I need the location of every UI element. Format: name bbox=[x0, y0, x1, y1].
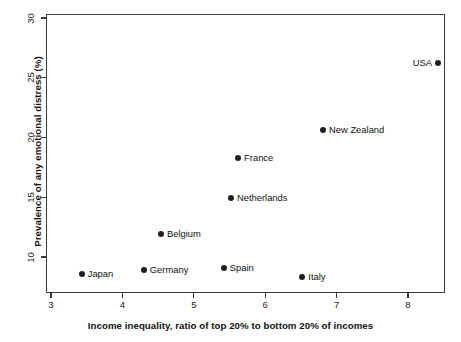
x-tick-mark bbox=[265, 293, 266, 298]
x-tick-mark bbox=[336, 293, 337, 298]
x-tick-mark bbox=[193, 293, 194, 298]
data-point-label: Spain bbox=[230, 263, 254, 273]
data-point[interactable] bbox=[141, 267, 147, 273]
data-point[interactable] bbox=[221, 265, 227, 271]
y-tick-mark bbox=[41, 17, 46, 18]
data-point-label: Belgium bbox=[167, 229, 201, 239]
data-point-label: France bbox=[244, 153, 273, 163]
x-tick-label: 8 bbox=[398, 299, 418, 310]
data-point-label: Japan bbox=[88, 269, 114, 279]
x-tick-label: 5 bbox=[184, 299, 204, 310]
data-point-label: USA bbox=[413, 58, 432, 68]
x-axis-title: Income inequality, ratio of top 20% to b… bbox=[0, 320, 461, 331]
scatter-plot-figure: 345678 1015202530 JapanGermanyBelgiumSpa… bbox=[0, 0, 461, 342]
x-tick-label: 3 bbox=[41, 299, 61, 310]
data-point[interactable] bbox=[235, 155, 241, 161]
x-tick-mark bbox=[50, 293, 51, 298]
data-point-label: Netherlands bbox=[237, 193, 288, 203]
x-tick-mark bbox=[407, 293, 408, 298]
x-tick-label: 6 bbox=[255, 299, 275, 310]
data-point-label: Germany bbox=[150, 265, 189, 275]
data-point[interactable] bbox=[79, 271, 85, 277]
y-axis-title: Prevalence of any emotional distress (%) bbox=[32, 32, 43, 272]
x-tick-mark bbox=[122, 293, 123, 298]
x-tick-label: 7 bbox=[327, 299, 347, 310]
y-tick-label: 30 bbox=[22, 13, 38, 24]
x-tick-label: 4 bbox=[112, 299, 132, 310]
data-point-label: Italy bbox=[308, 272, 325, 282]
data-point-label: New Zealand bbox=[329, 125, 384, 135]
